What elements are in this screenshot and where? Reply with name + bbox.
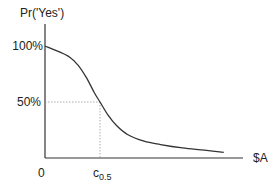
y-tick-label-50: 50% bbox=[17, 95, 41, 109]
c-half-label: c0.5 bbox=[93, 166, 112, 182]
chart-svg: Pr('Yes') 100% 50% 0 $A c0.5 bbox=[0, 0, 280, 187]
c-half-label-sub: 0.5 bbox=[99, 172, 112, 182]
y-tick-label-100: 100% bbox=[12, 39, 43, 53]
x-axis-label: $A bbox=[253, 151, 268, 165]
origin-label: 0 bbox=[38, 166, 45, 180]
y-axis-label: Pr('Yes') bbox=[20, 6, 64, 20]
series-line bbox=[45, 46, 224, 152]
